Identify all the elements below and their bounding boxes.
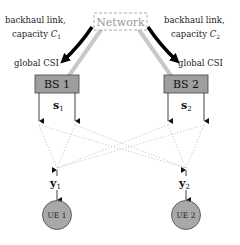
backhaul-label-2: backhaul link, capacity C2 global CSI [164,15,225,68]
backhaul-label-1: backhaul link, capacity C1 global CSI [5,15,66,68]
ue-label-2: UE 2 [177,211,196,220]
svg-text:capacity C1: capacity C1 [12,29,61,40]
global-csi-label-2: global CSI [178,58,223,68]
network-node: Network [94,13,147,30]
svg-text:backhaul link,: backhaul link, [5,15,66,25]
cran-diagram: Network backhaul link, capacity C1 globa… [0,0,240,245]
user-equipment-1: y1 UE 1 [43,170,72,230]
signal-s2: s2 [181,99,192,113]
ue-label-1: UE 1 [48,211,67,220]
wireless-channels [39,125,204,168]
base-station-2: BS 2 s2 [164,75,208,121]
svg-text:backhaul link,: backhaul link, [164,15,225,25]
bs-label-2: BS 2 [173,78,199,91]
received-y2: y2 [178,177,190,191]
backhaul-links [66,27,174,80]
backhaul-arrows [64,27,176,60]
signal-s1: s1 [53,99,64,113]
network-label: Network [96,16,145,29]
received-y1: y1 [49,177,61,191]
user-equipment-2: y2 UE 2 [172,170,201,230]
base-station-1: BS 1 s1 [35,75,79,121]
svg-text:capacity C2: capacity C2 [171,29,220,40]
global-csi-label-1: global CSI [14,58,59,68]
bs-label-1: BS 1 [44,78,70,91]
